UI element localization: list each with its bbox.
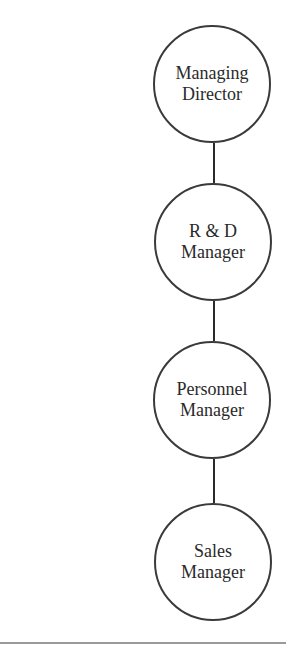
node-label-line2: Manager xyxy=(181,242,245,263)
connector-md-to-rd xyxy=(213,143,215,183)
node-managing-director: Managing Director xyxy=(153,25,271,143)
org-chart: Managing Director R & D Manager Personne… xyxy=(0,0,295,650)
node-label-line2: Manager xyxy=(181,562,245,583)
node-label-line1: Sales xyxy=(194,541,232,562)
node-label-line1: Managing xyxy=(176,63,249,84)
node-personnel-manager: Personnel Manager xyxy=(153,341,271,459)
node-label-line1: Personnel xyxy=(177,379,248,400)
node-label-line1: R & D xyxy=(189,221,237,242)
node-rd-manager: R & D Manager xyxy=(154,183,272,301)
bottom-rule xyxy=(0,642,286,644)
connector-personnel-to-sales xyxy=(213,459,215,503)
connector-rd-to-personnel xyxy=(213,301,215,341)
node-sales-manager: Sales Manager xyxy=(154,503,272,621)
node-label-line2: Manager xyxy=(180,400,244,421)
node-label-line2: Director xyxy=(182,84,242,105)
